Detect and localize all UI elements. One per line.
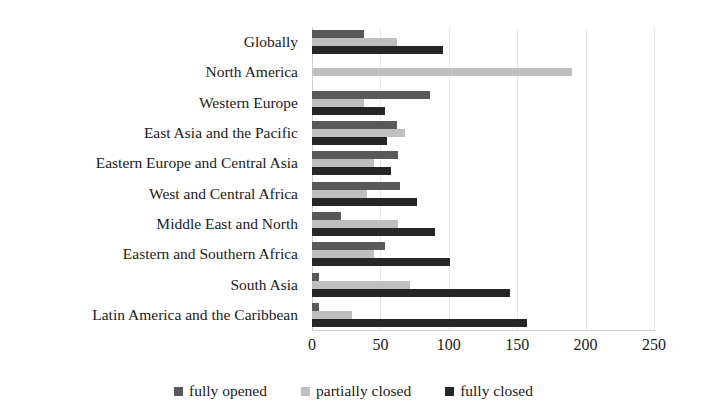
y-axis-label: Eastern Europe and Central Asia [0,154,298,172]
chart-legend: fully openedpartially closedfully closed [0,378,707,404]
x-axis-tick-label: 100 [437,336,461,354]
y-axis-label: South Asia [0,276,298,294]
x-axis-tick-label: 0 [308,336,316,354]
bar[interactable] [312,159,374,167]
bar[interactable] [312,38,397,46]
bar-group [312,273,654,297]
bar-group [312,212,654,236]
bar[interactable] [312,30,364,38]
bar[interactable] [312,319,527,327]
bar[interactable] [312,250,374,258]
y-axis-category-labels: GloballyNorth AmericaWestern EuropeEast … [0,27,306,330]
bar[interactable] [312,121,397,129]
bar[interactable] [312,258,450,266]
bar[interactable] [312,151,398,159]
legend-swatch-icon [445,387,454,396]
legend-item[interactable]: fully closed [445,382,533,400]
bar[interactable] [312,303,319,311]
bar[interactable] [312,99,364,107]
bar[interactable] [312,198,417,206]
bar[interactable] [312,137,387,145]
plot-area [312,27,654,330]
y-axis-label: Globally [0,33,298,51]
bar[interactable] [312,242,385,250]
bar-group [312,182,654,206]
bar[interactable] [312,129,405,137]
bar[interactable] [312,311,352,319]
legend-label: fully opened [189,382,267,400]
x-axis-tick-labels: 050100150200250 [0,336,707,358]
bar-group [312,30,654,54]
x-axis-tick-label: 50 [372,336,388,354]
x-axis-tick-label: 250 [642,336,666,354]
bar-group [312,151,654,175]
bar-group [312,303,654,327]
legend-label: partially closed [316,382,411,400]
bar-group [312,121,654,145]
bar[interactable] [312,107,385,115]
bar[interactable] [312,228,435,236]
bar[interactable] [312,281,410,289]
bar[interactable] [312,273,319,281]
y-axis-label: Western Europe [0,94,298,112]
bar-chart: GloballyNorth AmericaWestern EuropeEast … [0,0,707,420]
x-axis-line [312,330,655,331]
bar[interactable] [312,46,443,54]
bar[interactable] [312,212,341,220]
legend-item[interactable]: partially closed [301,382,411,400]
bar[interactable] [312,167,391,175]
legend-swatch-icon [301,387,310,396]
y-axis-label: North America [0,63,298,81]
bar-group [312,242,654,266]
bar[interactable] [312,91,430,99]
bar[interactable] [312,68,572,76]
y-axis-label: Middle East and North [0,215,298,233]
x-axis-tick-label: 150 [505,336,529,354]
y-axis-label: Latin America and the Caribbean [0,306,298,324]
y-axis-label: East Asia and the Pacific [0,124,298,142]
y-axis-label: Eastern and Southern Africa [0,245,298,263]
bar[interactable] [312,182,400,190]
bar[interactable] [312,220,398,228]
bar-group [312,91,654,115]
bar-group [312,60,654,84]
bar[interactable] [312,190,367,198]
y-axis-label: West and Central Africa [0,185,298,203]
gridline [654,27,655,330]
bar[interactable] [312,289,510,297]
legend-label: fully closed [460,382,533,400]
legend-swatch-icon [174,387,183,396]
legend-item[interactable]: fully opened [174,382,267,400]
x-axis-tick-label: 200 [574,336,598,354]
